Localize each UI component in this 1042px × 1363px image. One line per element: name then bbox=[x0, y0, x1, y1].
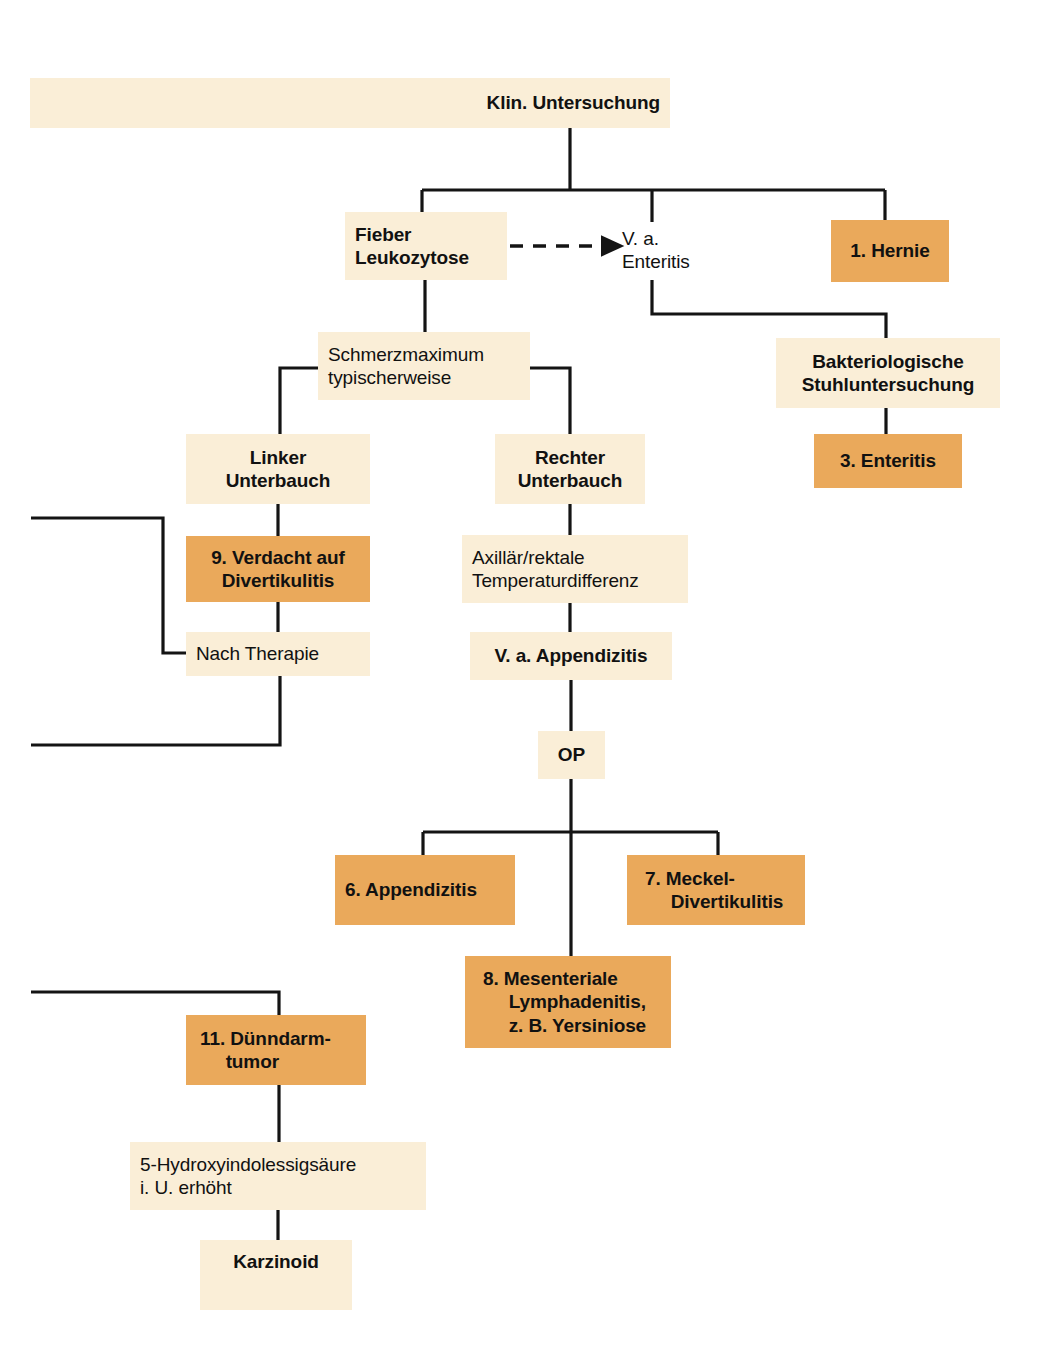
node-label-line-1: Fieber bbox=[355, 223, 411, 246]
node-label: 1. Hernie bbox=[850, 239, 929, 262]
node-fieber-leukozytose[interactable]: Fieber Leukozytose bbox=[345, 212, 507, 280]
edge-enteritis-to-bakt bbox=[652, 280, 886, 338]
node-op[interactable]: OP bbox=[538, 731, 605, 779]
node-label: OP bbox=[558, 743, 585, 766]
node-label-line-2: typischerweise bbox=[328, 366, 451, 389]
node-9-verdacht-auf-divertikulitis[interactable]: 9. Verdacht auf Divertikulitis bbox=[186, 536, 370, 602]
node-label: Nach Therapie bbox=[196, 642, 319, 665]
node-label: Klin. Untersuchung bbox=[487, 91, 660, 114]
node-va-enteritis[interactable]: V. a. Enteritis bbox=[622, 222, 742, 278]
node-va-appendizitis[interactable]: V. a. Appendizitis bbox=[470, 632, 672, 680]
node-label-line-2: Stuhluntersuchung bbox=[802, 373, 974, 396]
edge-nach-to-offpage bbox=[31, 676, 280, 745]
node-karzinoid[interactable]: Karzinoid bbox=[200, 1240, 352, 1310]
node-label: V. a. Appendizitis bbox=[494, 644, 647, 667]
node-label-line-2: Enteritis bbox=[622, 250, 690, 273]
node-label-line-1: Rechter bbox=[535, 446, 605, 469]
node-1-hernie[interactable]: 1. Hernie bbox=[831, 220, 949, 282]
node-label-line-1: 8. Mesenteriale bbox=[483, 967, 618, 990]
node-label-line-1: 7. Meckel- bbox=[645, 867, 735, 890]
node-label-line-2: tumor bbox=[200, 1050, 279, 1073]
node-label-line-2: Divertikulitis bbox=[645, 890, 783, 913]
node-5-hydroxyindolessigsaeure[interactable]: 5-Hydroxyindolessigsäure i. U. erhöht bbox=[130, 1142, 426, 1210]
node-nach-therapie[interactable]: Nach Therapie bbox=[186, 632, 370, 676]
node-label: 6. Appendizitis bbox=[345, 878, 477, 901]
node-label-line-1: Schmerzmaximum bbox=[328, 343, 484, 366]
node-axillaer-rektale-temperaturdifferenz[interactable]: Axillär/rektale Temperaturdifferenz bbox=[462, 535, 688, 603]
node-label-line-2: Leukozytose bbox=[355, 246, 469, 269]
node-3-enteritis[interactable]: 3. Enteritis bbox=[814, 434, 962, 488]
node-label-line-1: V. a. bbox=[622, 227, 659, 250]
edge-offpage-to-duenn11 bbox=[31, 992, 279, 1015]
node-label-line-1: 9. Verdacht auf bbox=[211, 546, 345, 569]
node-label-line-2: i. U. erhöht bbox=[140, 1176, 232, 1199]
node-label-line-3: z. B. Yersiniose bbox=[483, 1014, 646, 1037]
node-label-line-2: Lymphadenitis, bbox=[483, 990, 646, 1013]
edge-offpage-into-nach bbox=[31, 518, 186, 653]
node-label-line-1: 5-Hydroxyindolessigsäure bbox=[140, 1153, 356, 1176]
node-label-line-1: Axillär/rektale bbox=[472, 546, 585, 569]
node-8-mesenteriale-lymphadenitis[interactable]: 8. Mesenteriale Lymphadenitis, z. B. Yer… bbox=[465, 956, 671, 1048]
node-label-line-1: Linker bbox=[250, 446, 306, 469]
node-label: 3. Enteritis bbox=[840, 449, 936, 472]
node-label-line-2: Unterbauch bbox=[518, 469, 623, 492]
edge-schmerz-to-links bbox=[280, 368, 318, 434]
node-rechter-unterbauch[interactable]: Rechter Unterbauch bbox=[495, 434, 645, 504]
node-label-line-1: 11. Dünndarm- bbox=[200, 1027, 331, 1050]
node-schmerzmaximum[interactable]: Schmerzmaximum typischerweise bbox=[318, 332, 530, 400]
node-label-line-2: Unterbauch bbox=[226, 469, 331, 492]
node-bakteriologische-stuhluntersuchung[interactable]: Bakteriologische Stuhluntersuchung bbox=[776, 338, 1000, 408]
node-label-line-2: Divertikulitis bbox=[222, 569, 335, 592]
node-label-line-1: Bakteriologische bbox=[812, 350, 964, 373]
node-label-line-2: Temperaturdifferenz bbox=[472, 569, 639, 592]
node-11-duenndarmtumor[interactable]: 11. Dünndarm- tumor bbox=[186, 1015, 366, 1085]
node-6-appendizitis[interactable]: 6. Appendizitis bbox=[335, 855, 515, 925]
edge-schmerz-to-rechts bbox=[530, 368, 570, 434]
flowchart-canvas: Klin. Untersuchung Fieber Leukozytose V.… bbox=[0, 0, 1042, 1363]
node-label: Karzinoid bbox=[233, 1250, 319, 1273]
node-7-meckel-divertikulitis[interactable]: 7. Meckel- Divertikulitis bbox=[627, 855, 805, 925]
node-klin-untersuchung[interactable]: Klin. Untersuchung bbox=[30, 78, 670, 128]
node-linker-unterbauch[interactable]: Linker Unterbauch bbox=[186, 434, 370, 504]
